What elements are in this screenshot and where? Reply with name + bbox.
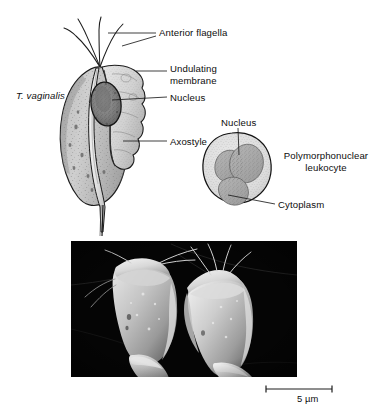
label-polymorphonuclear-leukocyte: Polymorphonuclear leukocyte <box>276 150 376 173</box>
label-axostyle: Axostyle <box>170 136 207 148</box>
scale-bar <box>265 385 333 393</box>
leader-anterior-flagella-b <box>122 36 156 46</box>
label-anterior-flagella: Anterior flagella <box>159 27 227 39</box>
anterior-flagella-group <box>64 17 123 67</box>
label-species-name: T. vaginalis <box>16 90 65 102</box>
label-cytoplasm: Cytoplasm <box>278 199 324 211</box>
label-nucleus-leukocyte: Nucleus <box>221 117 256 129</box>
figure-root: Anterior flagella Undulating membrane Nu… <box>0 0 376 413</box>
scale-bar-label: 5 µm <box>297 393 318 405</box>
label-undulating-membrane: Undulating membrane <box>170 63 240 86</box>
micrograph-content <box>71 241 297 377</box>
polymorphonuclear-leukocyte-cell <box>198 128 280 210</box>
label-nucleus-trichomonas: Nucleus <box>170 92 205 104</box>
scanning-electron-micrograph <box>71 241 297 377</box>
